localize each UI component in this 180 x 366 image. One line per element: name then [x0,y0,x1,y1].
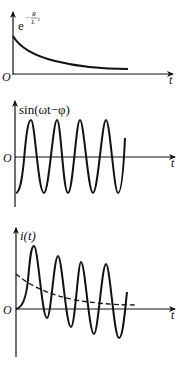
y-axis-label: sin(ωt−φ) [19,102,70,117]
ylabel-minus: − [26,14,30,22]
origin-label: O [3,151,12,165]
ylabel-exp-den: L [31,19,36,25]
figure: e − R L t O t sin(ωt−φ) O t i(t) O t [0,0,180,366]
x-axis-label: t [171,156,175,170]
ylabel-base: e [18,18,24,33]
ylabel-exp-num: R [31,11,36,17]
chart-exponential-decay: e − R L t O t [2,11,173,87]
origin-label: O [2,70,11,84]
chart-current-response: i(t) O t [3,228,175,357]
origin-label: O [3,303,12,317]
y-axis-label: i(t) [20,228,36,243]
x-axis-label: t [171,308,175,322]
ylabel-exp-var: t [38,16,40,22]
decay-curve [13,36,128,69]
current-curve [16,246,127,338]
x-axis-label: t [169,73,173,87]
chart-sinusoid: sin(ωt−φ) O t [3,101,175,207]
